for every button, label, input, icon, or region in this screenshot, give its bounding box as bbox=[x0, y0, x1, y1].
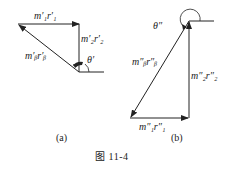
panel-a-label: (a) bbox=[56, 133, 67, 143]
label-b-m2r2: m″₂r″₂ bbox=[191, 71, 217, 81]
vector-a-mbrb bbox=[19, 25, 79, 72]
vector-b-mbrb bbox=[131, 21, 189, 117]
label-a-m1r1: m′₁r′₁ bbox=[34, 11, 56, 21]
label-a-theta: θ′ bbox=[87, 55, 94, 65]
label-b-mbrb: m″ᵦr″ᵦ bbox=[132, 57, 157, 67]
panel-b-label: (b) bbox=[171, 133, 183, 143]
figure-caption: 图 11-4 bbox=[95, 152, 128, 162]
label-a-m2r2: m′₂r′₂ bbox=[81, 34, 103, 44]
label-b-m1r1: m″₁r″₁ bbox=[139, 122, 165, 132]
angle-arc-a bbox=[85, 64, 89, 72]
angle-arc-b bbox=[180, 9, 200, 27]
label-b-theta: θ″ bbox=[153, 21, 162, 31]
label-a-mbrb: m′ᵦr′ᵦ bbox=[25, 51, 46, 61]
vector-diagram bbox=[0, 0, 232, 176]
